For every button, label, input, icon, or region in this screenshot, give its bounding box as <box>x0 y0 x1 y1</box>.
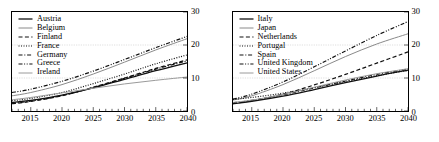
y-axis-tick-label: 10 <box>191 74 200 83</box>
legend-line-icon <box>18 51 33 59</box>
legend-line-icon <box>239 60 254 68</box>
plot-area: ItalyJapanNetherlandsPortugalSpainUnited… <box>232 11 409 112</box>
legend-line-icon <box>18 60 33 68</box>
x-axis-tick-label: 2020 <box>274 114 291 123</box>
legend-line-icon <box>239 24 254 32</box>
x-axis-tick-label: 2035 <box>368 114 385 123</box>
legend: ItalyJapanNetherlandsPortugalSpainUnited… <box>239 15 313 77</box>
left-panel: AustriaBelgiumFinlandFranceGermanyGreece… <box>0 0 220 142</box>
y-axis-tick-label: 20 <box>191 40 200 49</box>
legend-line-icon <box>18 24 33 32</box>
series-line <box>12 77 187 100</box>
x-axis-labels: 201520202025203020352040 <box>0 114 220 128</box>
legend-item-label: United States <box>258 68 302 77</box>
y-axis-tick-label: 20 <box>412 40 421 49</box>
legend-line-icon <box>18 42 33 50</box>
x-axis-tick-label: 2025 <box>85 114 102 123</box>
x-axis-tick-label: 2040 <box>180 114 197 123</box>
x-axis-tick-label: 2030 <box>116 114 133 123</box>
x-axis-tick-label: 2035 <box>148 114 165 123</box>
legend-line-icon <box>239 33 254 41</box>
x-axis-tick-label: 2030 <box>337 114 354 123</box>
legend-line-icon <box>18 69 33 77</box>
legend-line-icon <box>18 15 33 23</box>
legend-item[interactable]: United States <box>239 68 313 77</box>
x-axis-tick-label: 2040 <box>400 114 417 123</box>
legend-line-icon <box>239 51 254 59</box>
y-axis-tick-label: 30 <box>191 7 200 16</box>
x-axis-labels: 201520202025203020352040 <box>220 114 439 128</box>
right-panel: ItalyJapanNetherlandsPortugalSpainUnited… <box>220 0 439 142</box>
plot-area: AustriaBelgiumFinlandFranceGermanyGreece… <box>11 11 188 112</box>
legend-item[interactable]: Ireland <box>18 68 67 77</box>
legend-line-icon <box>239 42 254 50</box>
y-axis-tick-label: 10 <box>412 74 421 83</box>
legend: AustriaBelgiumFinlandFranceGermanyGreece… <box>18 15 67 77</box>
y-axis-tick-label: 30 <box>412 7 421 16</box>
x-axis-tick-label: 2015 <box>242 114 259 123</box>
legend-item-label: Ireland <box>37 68 60 77</box>
x-axis-tick-label: 2015 <box>21 114 38 123</box>
x-axis-tick-label: 2025 <box>305 114 322 123</box>
legend-line-icon <box>18 33 33 41</box>
legend-line-icon <box>239 15 254 23</box>
legend-line-icon <box>239 69 254 77</box>
figure-two-panel-line-charts: AustriaBelgiumFinlandFranceGermanyGreece… <box>0 0 439 142</box>
x-axis-tick-label: 2020 <box>53 114 70 123</box>
